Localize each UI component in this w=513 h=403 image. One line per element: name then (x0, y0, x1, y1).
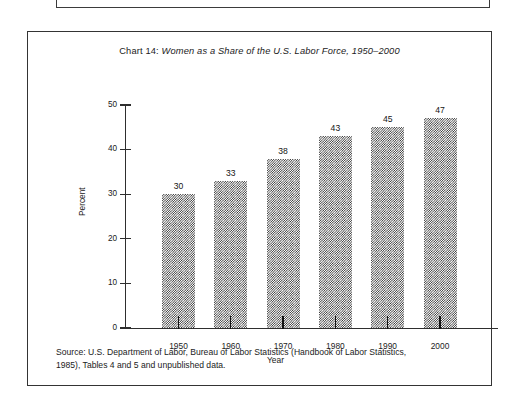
bar-value-label: 38 (253, 146, 313, 156)
y-tick-label: 50 (77, 101, 117, 109)
source-note-line-1: Source: U.S. Department of Labor, Bureau… (56, 346, 466, 359)
y-tick-mark (120, 283, 131, 284)
y-tick-label: 30 (77, 190, 117, 198)
x-axis-line (125, 328, 498, 329)
bar-value-label: 47 (410, 105, 470, 115)
y-tick-label: 10 (77, 279, 117, 287)
bar (214, 181, 247, 328)
y-axis-line (125, 105, 126, 328)
plot-area: 01020304050 303338434547 195019601970198… (125, 105, 498, 328)
x-tick-mark (387, 316, 388, 329)
bar (424, 118, 457, 328)
chart-figure-frame: Chart 14: Women as a Share of the U.S. L… (27, 31, 492, 386)
y-tick-mark (120, 327, 131, 328)
x-tick-mark (439, 316, 440, 329)
x-tick-mark (178, 316, 179, 329)
x-tick-mark (282, 316, 283, 329)
bar (162, 194, 195, 328)
source-note-line-2: 1985), Tables 4 and 5 and unpublished da… (56, 359, 466, 372)
chart-title: Chart 14: Women as a Share of the U.S. L… (28, 46, 491, 56)
x-tick-mark (230, 316, 231, 329)
y-tick-mark (120, 104, 131, 105)
chart-title-text: Women as a Share of the U.S. Labor Force… (162, 46, 400, 56)
bar-value-label: 45 (358, 114, 418, 124)
preceding-figure-frame-partial (56, 0, 490, 8)
y-tick-mark (120, 238, 131, 239)
bar (319, 136, 352, 328)
chart-title-number: Chart 14: (119, 46, 159, 56)
bar-value-label: 33 (201, 168, 261, 178)
y-tick-label: 20 (77, 235, 117, 243)
y-tick-mark (120, 194, 131, 195)
y-tick-mark (120, 149, 131, 150)
bar-value-label: 30 (149, 181, 209, 191)
bar-value-label: 43 (305, 123, 365, 133)
x-tick-mark (335, 316, 336, 329)
y-tick-label: 40 (77, 145, 117, 153)
bar (371, 127, 404, 328)
bar (267, 159, 300, 328)
y-tick-label: 0 (77, 324, 117, 332)
source-note: Source: U.S. Department of Labor, Bureau… (56, 346, 466, 371)
